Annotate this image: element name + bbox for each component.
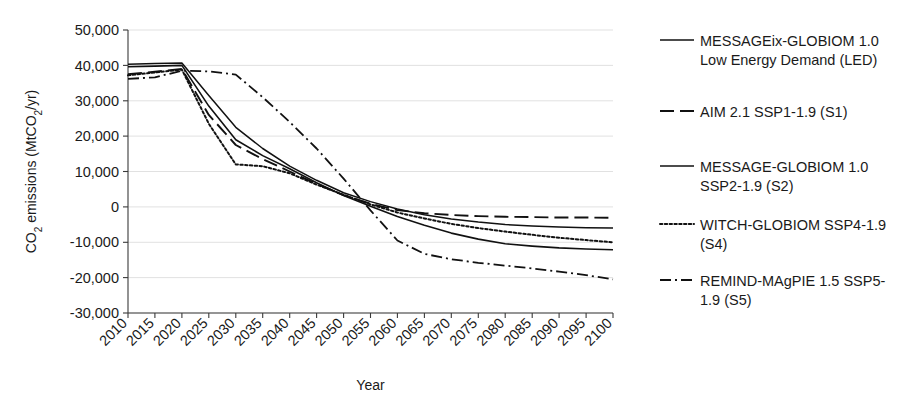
y-tick-label: -10,000	[70, 234, 119, 250]
legend-label2-S5: 1.9 (S5)	[700, 292, 752, 308]
y-tick-label: 40,000	[75, 58, 119, 74]
legend-label-S4: WITCH-GLOBIOM SSP4-1.9	[700, 217, 886, 233]
x-tick-label: 2060	[365, 315, 399, 349]
x-tick-label: 2100	[581, 315, 615, 349]
x-tick-label: 2035	[231, 315, 265, 349]
legend: MESSAGEix-GLOBIOM 1.0Low Energy Demand (…	[660, 33, 886, 308]
gridlines	[128, 30, 613, 313]
axes	[123, 30, 613, 318]
y-tick-label: -30,000	[70, 305, 119, 321]
x-tick-label: 2070	[419, 315, 453, 349]
x-tick-label: 2095	[554, 315, 588, 349]
x-tick-labels: 2010201520202025203020352040204520502055…	[96, 315, 615, 349]
y-tick-label: 50,000	[75, 22, 119, 38]
x-tick-label: 2075	[446, 315, 480, 349]
x-tick-label: 2045	[285, 315, 319, 349]
y-tick-label: 0	[111, 199, 119, 215]
legend-label2-S0: Low Energy Demand (LED)	[700, 52, 877, 68]
x-tick-label: 2085	[500, 315, 534, 349]
x-tick-label: 2040	[258, 315, 292, 349]
co2-emissions-line-chart: 50,00040,00030,00020,00010,0000-10,000-2…	[0, 0, 920, 401]
series-S0	[128, 63, 613, 228]
x-tick-label: 2065	[392, 315, 426, 349]
x-tick-label: 2020	[150, 315, 184, 349]
y-tick-labels: 50,00040,00030,00020,00010,0000-10,000-2…	[70, 22, 119, 321]
y-tick-label: 10,000	[75, 164, 119, 180]
x-axis-title: Year	[356, 377, 385, 393]
x-tick-label: 2050	[312, 315, 346, 349]
y-tick-label: -20,000	[70, 270, 119, 286]
legend-label-S1: AIM 2.1 SSP1-1.9 (S1)	[700, 104, 847, 120]
y-tick-label: 20,000	[75, 128, 119, 144]
emissions-chart-figure: 50,00040,00030,00020,00010,0000-10,000-2…	[0, 0, 920, 401]
legend-label-S0: MESSAGEix-GLOBIOM 1.0	[700, 33, 879, 49]
y-tick-label: 30,000	[75, 93, 119, 109]
x-tick-label: 2090	[527, 315, 561, 349]
legend-label2-S2: SSP2-1.9 (S2)	[700, 178, 794, 194]
x-tick-label: 2015	[123, 315, 157, 349]
y-axis-title: CO2 emissions (MtCO2/yr)	[23, 90, 44, 254]
legend-label2-S4: (S4)	[700, 236, 727, 252]
legend-label-S2: MESSAGE-GLOBIOM 1.0	[700, 159, 868, 175]
series-S1	[128, 69, 613, 218]
x-tick-label: 2025	[177, 315, 211, 349]
x-tick-label: 2030	[204, 315, 238, 349]
x-tick-label: 2080	[473, 315, 507, 349]
series-S2	[128, 65, 613, 249]
x-tick-label: 2055	[338, 315, 372, 349]
legend-label-S5: REMIND-MAgPIE 1.5 SSP5-	[700, 273, 885, 289]
